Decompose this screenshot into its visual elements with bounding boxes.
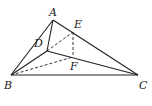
segment-ac (53, 20, 138, 75)
label-e: E (73, 18, 82, 31)
geometry-diagram: A B C D E F (0, 0, 152, 106)
label-d: D (33, 37, 43, 50)
segment-ab (11, 20, 53, 75)
label-a: A (48, 6, 57, 19)
label-b: B (3, 79, 12, 92)
segment-bf (11, 57, 73, 75)
segment-de (47, 32, 73, 51)
label-c: C (139, 79, 148, 92)
segment-bd (11, 51, 47, 75)
label-f: F (69, 60, 78, 73)
segment-dc (47, 51, 138, 75)
